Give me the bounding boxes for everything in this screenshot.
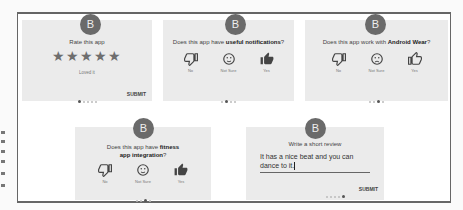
choice-label: No (336, 68, 341, 73)
submit-button[interactable]: SUBMIT (127, 91, 146, 97)
thumbs-down-icon (332, 52, 346, 66)
write-review-card: B Write a short review It has a nice bea… (246, 127, 384, 200)
app-avatar: B (365, 14, 386, 35)
page-dot (342, 195, 345, 198)
edge-text-fragment (1, 160, 5, 163)
choice-label: Not Sure (369, 68, 385, 73)
question-emphasis: Android Wear (388, 39, 427, 45)
page-indicator (305, 92, 448, 96)
edge-text-fragment (1, 140, 5, 143)
page-dot (382, 101, 384, 103)
answer-yes-button[interactable]: Yes (257, 52, 277, 73)
page-dot (234, 101, 236, 103)
page-dot (91, 101, 93, 103)
choice-label: Yes (411, 68, 418, 73)
app-avatar: B (225, 14, 246, 35)
android-wear-question-card: B Does this app work with Android Wear? … (305, 20, 448, 101)
choice-label: No (188, 68, 193, 73)
rating-label: Loved it (22, 70, 152, 75)
answer-choices: No Not Sure Yes (305, 52, 448, 73)
star-icon[interactable]: ★ (52, 48, 66, 64)
page-indicator (163, 92, 294, 96)
thumbs-down-icon (98, 163, 112, 177)
answer-yes-button[interactable]: Yes (405, 52, 425, 73)
page-dot (136, 200, 138, 202)
thumbs-up-icon (260, 52, 274, 66)
fitness-integration-question-card: B Does this app have fitness app integra… (75, 127, 211, 200)
page-dot (144, 199, 147, 202)
edge-text-fragment (1, 172, 5, 175)
star-icon[interactable]: ★ (66, 48, 80, 64)
card-question: Does this app have fitness app integrati… (75, 143, 211, 159)
star-icon[interactable]: ★ (108, 48, 122, 64)
page-dot (326, 196, 328, 198)
choice-label: Not Sure (135, 179, 151, 184)
choice-label: Yes (178, 179, 185, 184)
thumbs-up-icon (174, 163, 188, 177)
page-dot (95, 101, 97, 103)
choice-label: No (102, 179, 107, 184)
question-emphasis: useful notifications (226, 39, 281, 45)
card-question: Rate this app (22, 39, 152, 45)
card-question: Write a short review (246, 141, 384, 147)
page-dot (338, 196, 340, 198)
edge-text-fragment (1, 150, 5, 153)
question-suffix: ? (281, 39, 284, 45)
page-dot (140, 200, 142, 202)
question-text: Does this app have (173, 39, 226, 45)
edge-text-fragment (1, 184, 5, 187)
app-avatar: B (133, 118, 154, 139)
choice-label: Not Sure (221, 68, 237, 73)
question-text: Does this app have (107, 144, 160, 150)
answer-not-sure-button[interactable]: Not Sure (133, 163, 153, 184)
thumbs-up-icon (408, 52, 422, 66)
question-suffix: ? (163, 152, 166, 158)
answer-not-sure-button[interactable]: Not Sure (367, 52, 387, 73)
notifications-question-card: B Does this app have useful notification… (163, 20, 294, 101)
card-question: Does this app have useful notifications? (163, 39, 294, 45)
answer-no-button[interactable]: No (329, 52, 349, 73)
question-suffix: ? (427, 39, 430, 45)
page-dot (149, 200, 151, 202)
review-text-input[interactable]: It has a nice beat and you can dance to … (260, 152, 370, 173)
card-question: Does this app work with Android Wear? (305, 39, 448, 45)
page-dot (87, 101, 89, 103)
choice-label: Yes (263, 68, 270, 73)
question-text: Does this app work with (323, 39, 388, 45)
app-avatar: B (80, 14, 101, 35)
page-dot (83, 101, 85, 103)
answer-no-button[interactable]: No (95, 163, 115, 184)
neutral-face-icon (136, 163, 150, 177)
thumbs-down-icon (184, 52, 198, 66)
sad-face-icon (370, 52, 384, 66)
answer-not-sure-button[interactable]: Not Sure (219, 52, 239, 73)
star-icon[interactable]: ★ (94, 48, 108, 64)
page-dot (230, 101, 232, 103)
page-dot (78, 100, 81, 103)
answer-choices: No Not Sure Yes (75, 163, 211, 184)
answer-choices: No Not Sure Yes (163, 52, 294, 73)
edge-text-fragment (1, 131, 5, 134)
answer-no-button[interactable]: No (181, 52, 201, 73)
neutral-face-icon (222, 52, 236, 66)
rate-app-card: B Rate this app ★★★★★ Loved it SUBMIT (22, 20, 152, 101)
star-icon[interactable]: ★ (80, 48, 94, 64)
page-dot (334, 196, 336, 198)
text-cursor (294, 162, 295, 170)
app-avatar: B (305, 118, 326, 139)
answer-yes-button[interactable]: Yes (171, 163, 191, 184)
page-dot (373, 101, 375, 103)
page-dot (369, 101, 371, 103)
page-dot (221, 101, 223, 103)
review-text: It has a nice beat and you can dance to … (260, 153, 353, 169)
star-rating[interactable]: ★★★★★ (22, 48, 152, 64)
page-indicator (75, 191, 211, 195)
page-dot (330, 196, 332, 198)
submit-button[interactable]: SUBMIT (359, 186, 378, 192)
